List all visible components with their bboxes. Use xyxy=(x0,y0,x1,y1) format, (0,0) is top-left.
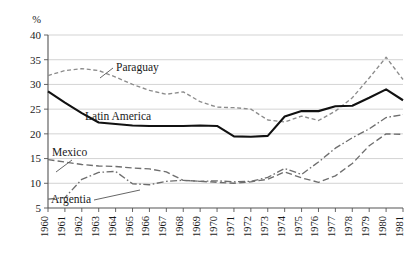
y-tick-label: 20 xyxy=(30,128,42,140)
leader-line-argentia xyxy=(94,190,140,200)
y-tick-label: 25 xyxy=(30,103,42,115)
series-label-argentia: Argentia xyxy=(51,193,91,206)
x-tick-label: 1976 xyxy=(309,216,320,237)
x-tick-label: 1973 xyxy=(259,216,270,237)
x-tick-label: 1970 xyxy=(208,216,219,237)
x-tick-label: 1962 xyxy=(73,216,84,237)
series-label-paraguay: Paraguay xyxy=(116,61,159,74)
x-tick-label: 1974 xyxy=(276,215,287,237)
x-tick-label: 1967 xyxy=(157,216,168,237)
x-tick-label: 1960 xyxy=(39,216,50,237)
x-tick-label: 1972 xyxy=(242,216,253,237)
series-line-argentia xyxy=(48,115,403,200)
x-tick-label: 1971 xyxy=(225,216,236,237)
x-tick-label: 1963 xyxy=(90,216,101,237)
x-tick-label: 1980 xyxy=(377,216,388,237)
x-tick-label: 1969 xyxy=(191,216,202,237)
y-tick-label: 30 xyxy=(30,78,42,90)
x-tick-label: 1981 xyxy=(394,216,405,237)
series-group xyxy=(48,57,403,199)
x-tick-label: 1968 xyxy=(174,216,185,237)
x-tick-label: 1978 xyxy=(343,216,354,237)
y-tick-label: 5 xyxy=(36,202,42,214)
line-chart: 510152025303540%196019611962196319641965… xyxy=(0,0,415,253)
leader-line-paraguay xyxy=(100,68,113,78)
x-tick-label: 1965 xyxy=(124,216,135,237)
y-axis-unit-label: % xyxy=(32,14,41,25)
x-tick-label: 1964 xyxy=(107,215,118,237)
y-tick-label: 40 xyxy=(30,29,42,41)
y-tick-label: 10 xyxy=(30,177,42,189)
x-tick-label: 1961 xyxy=(56,216,67,237)
y-tick-label: 35 xyxy=(30,54,42,66)
x-tick-label: 1979 xyxy=(360,216,371,237)
y-tick-label: 15 xyxy=(30,152,42,164)
chart-container: 510152025303540%196019611962196319641965… xyxy=(0,0,415,253)
x-tick-label: 1966 xyxy=(140,216,151,237)
x-tick-label: 1975 xyxy=(293,216,304,237)
x-tick-label: 1977 xyxy=(326,216,337,237)
x-axis-ticks: 1960196119621963196419651966196719681969… xyxy=(39,208,405,237)
series-label-latin-america: Latin America xyxy=(85,110,151,122)
series-label-mexico: Mexico xyxy=(52,146,87,158)
